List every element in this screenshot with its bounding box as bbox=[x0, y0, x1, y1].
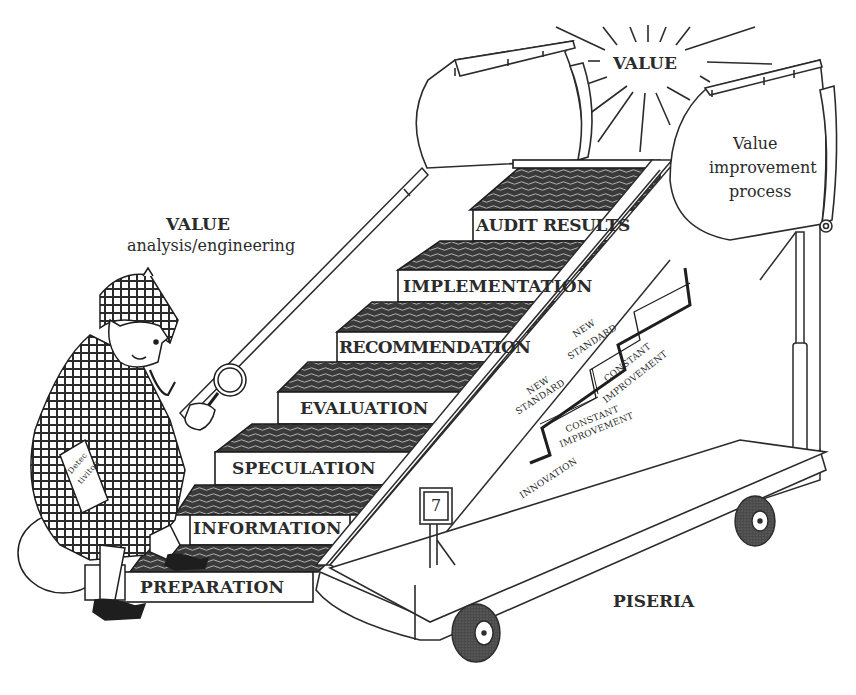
left-rail-banner bbox=[416, 41, 592, 168]
value-analysis-heading: VALUE bbox=[166, 214, 230, 234]
step-label-information: INFORMATION bbox=[193, 518, 342, 538]
step-label-preparation: PREPARATION bbox=[140, 577, 284, 597]
counter-box-value: 7 bbox=[431, 496, 441, 515]
value-improvement-staircase-illustration: VALUE analysis/engineering VALUE Value i… bbox=[0, 0, 856, 695]
sun-value-label: VALUE bbox=[613, 53, 677, 73]
banner-text-line2: improvement bbox=[709, 158, 817, 177]
banner-text-line1: Value bbox=[733, 134, 778, 153]
banner-text-line3: process bbox=[729, 182, 791, 201]
cart-wheel-front-icon bbox=[452, 604, 500, 662]
step-label-audit-results: AUDIT RESULTS bbox=[476, 215, 630, 235]
step-label-speculation: SPECULATION bbox=[232, 458, 376, 478]
cart-label: PISERIA bbox=[613, 591, 694, 611]
cart-wheel-back-icon bbox=[735, 496, 775, 546]
step-label-implementation: IMPLEMENTATION bbox=[403, 276, 593, 296]
value-analysis-subheading: analysis/engineering bbox=[127, 236, 295, 255]
step-label-recommendation: RECOMMENDATION bbox=[339, 337, 530, 357]
step-label-evaluation: EVALUATION bbox=[300, 398, 429, 418]
